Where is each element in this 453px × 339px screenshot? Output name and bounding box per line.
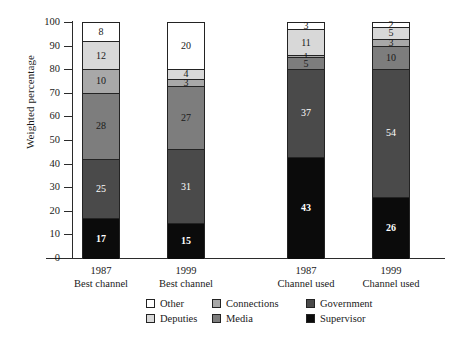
bar-segment-value: 31 xyxy=(181,182,191,192)
y-axis-tick xyxy=(64,93,72,94)
bar-segment-connections[interactable]: 3 xyxy=(168,80,204,87)
bar-2[interactable]: 2043273115 xyxy=(167,22,205,258)
bar-segment-value: 37 xyxy=(301,108,311,118)
bar-segment-value: 28 xyxy=(96,121,106,131)
y-axis-tick-label: 0 xyxy=(34,253,60,263)
y-axis-tick-label-wrap: 20 xyxy=(30,206,60,216)
bar-segment-deputies[interactable]: 12 xyxy=(83,42,119,70)
bar-segment-value: 17 xyxy=(96,234,106,244)
legend-label: Media xyxy=(226,313,253,324)
y-axis-tick-label-wrap: 100 xyxy=(30,17,60,27)
bar-segment-connections[interactable]: 3 xyxy=(373,40,409,47)
bar-segment-value: 54 xyxy=(386,128,396,138)
y-axis-tick xyxy=(64,164,72,165)
bar-segment-value: 43 xyxy=(301,203,311,213)
y-axis-tick xyxy=(64,116,72,117)
y-axis-tick xyxy=(64,258,72,259)
legend-swatch-supervisor xyxy=(306,314,315,323)
y-axis-tick-label: 20 xyxy=(34,206,60,216)
legend-label: Other xyxy=(160,298,184,309)
y-axis-tick-label: 40 xyxy=(34,159,60,169)
bar-segment-value: 8 xyxy=(99,27,104,37)
y-axis-tick-label-wrap: 90 xyxy=(30,41,60,51)
y-axis-tick-label: 70 xyxy=(34,88,60,98)
bar-segment-value: 10 xyxy=(96,76,106,86)
y-axis-line xyxy=(72,21,73,259)
y-axis-tick xyxy=(64,46,72,47)
bar-segment-value: 20 xyxy=(181,41,191,51)
bar-segment-other[interactable]: 3 xyxy=(288,23,324,30)
y-axis-tick-label: 30 xyxy=(34,182,60,192)
y-axis-tick xyxy=(64,187,72,188)
legend-label: Supervisor xyxy=(320,313,366,324)
x-axis-kind-label: Channel used xyxy=(336,277,446,290)
y-axis-tick-label-wrap: 40 xyxy=(30,159,60,169)
legend-label: Deputies xyxy=(160,313,197,324)
bar-3[interactable]: 311153743 xyxy=(287,22,325,258)
chart-legend: OtherConnectionsGovernmentDeputiesMediaS… xyxy=(146,296,402,326)
bar-segment-media[interactable]: 28 xyxy=(83,94,119,160)
legend-label: Government xyxy=(320,298,373,309)
y-axis-tick-label-wrap: 30 xyxy=(30,182,60,192)
y-axis-tick xyxy=(64,211,72,212)
y-axis-tick-label-wrap: 10 xyxy=(30,229,60,239)
bar-4[interactable]: 253105426 xyxy=(372,22,410,258)
bar-segment-government[interactable]: 54 xyxy=(373,70,409,197)
legend-label: Connections xyxy=(226,298,279,309)
x-axis-group-label: 1999Best channel xyxy=(131,264,241,290)
y-axis-tick-label: 50 xyxy=(34,135,60,145)
bar-segment-value: 26 xyxy=(386,223,396,233)
x-axis-year-label: 1999 xyxy=(131,264,241,277)
bar-segment-supervisor[interactable]: 17 xyxy=(83,219,119,259)
y-axis-tick-label-wrap: 60 xyxy=(30,111,60,121)
y-axis-tick xyxy=(64,140,72,141)
bar-segment-value: 5 xyxy=(304,59,309,69)
y-axis-tick-label-wrap: 70 xyxy=(30,88,60,98)
bar-segment-government[interactable]: 31 xyxy=(168,150,204,223)
y-axis-tick xyxy=(64,22,72,23)
bar-segment-other[interactable]: 8 xyxy=(83,23,119,42)
stacked-bar-chart: Weighted percentage 01020304050607080901… xyxy=(0,0,453,339)
bar-segment-value: 15 xyxy=(181,236,191,246)
bar-segment-connections[interactable]: 10 xyxy=(83,70,119,94)
legend-swatch-other xyxy=(146,299,155,308)
legend-swatch-media xyxy=(212,314,221,323)
legend-item-government[interactable]: Government xyxy=(306,296,402,311)
bar-segment-supervisor[interactable]: 15 xyxy=(168,224,204,259)
legend-item-other[interactable]: Other xyxy=(146,296,212,311)
x-axis-kind-label: Best channel xyxy=(131,277,241,290)
y-axis-tick-label: 100 xyxy=(34,17,60,27)
bar-segment-media[interactable]: 5 xyxy=(288,58,324,70)
y-axis-tick-label: 90 xyxy=(34,41,60,51)
bar-segment-media[interactable]: 10 xyxy=(373,47,409,71)
bar-segment-value: 27 xyxy=(181,113,191,123)
legend-swatch-deputies xyxy=(146,314,155,323)
bar-segment-other[interactable]: 20 xyxy=(168,23,204,70)
legend-swatch-connections xyxy=(212,299,221,308)
y-axis-tick-label-wrap: 80 xyxy=(30,64,60,74)
bar-segment-supervisor[interactable]: 43 xyxy=(288,158,324,259)
legend-item-connections[interactable]: Connections xyxy=(212,296,306,311)
bar-segment-media[interactable]: 27 xyxy=(168,87,204,151)
bar-segment-value: 25 xyxy=(96,184,106,194)
x-axis-year-label: 1999 xyxy=(336,264,446,277)
bar-segment-government[interactable]: 25 xyxy=(83,160,119,219)
y-axis-tick-label: 10 xyxy=(34,229,60,239)
bar-segment-value: 10 xyxy=(386,53,396,63)
y-axis-tick-label-wrap: 0 xyxy=(30,253,60,263)
legend-item-deputies[interactable]: Deputies xyxy=(146,311,212,326)
legend-item-supervisor[interactable]: Supervisor xyxy=(306,311,402,326)
bar-segment-value: 11 xyxy=(301,38,311,48)
y-axis-tick xyxy=(64,234,72,235)
x-axis-group-label: 1999Channel used xyxy=(336,264,446,290)
y-axis-tick-label: 80 xyxy=(34,64,60,74)
bar-segment-supervisor[interactable]: 26 xyxy=(373,198,409,259)
y-axis-tick-label-wrap: 50 xyxy=(30,135,60,145)
legend-swatch-government xyxy=(306,299,315,308)
bar-segment-government[interactable]: 37 xyxy=(288,70,324,157)
bar-1[interactable]: 81210282517 xyxy=(82,22,120,258)
y-axis-tick xyxy=(64,69,72,70)
bar-segment-value: 12 xyxy=(96,51,106,61)
legend-item-media[interactable]: Media xyxy=(212,311,306,326)
y-axis-tick-label: 60 xyxy=(34,111,60,121)
